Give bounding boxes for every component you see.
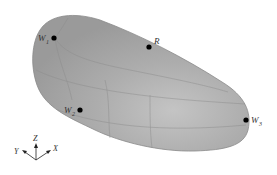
axis-triad [22, 143, 51, 160]
axis-y-label: Y [14, 147, 20, 156]
svg-text:1: 1 [46, 39, 49, 45]
svg-text:R: R [153, 36, 160, 46]
capsule-body [33, 15, 249, 151]
figure-canvas: W 1 R W 2 W 3 Z Y X [0, 0, 277, 175]
axis-x-label: X [52, 144, 59, 153]
svg-text:3: 3 [258, 121, 262, 127]
axis-z-label: Z [33, 134, 38, 143]
svg-text:2: 2 [72, 111, 75, 117]
